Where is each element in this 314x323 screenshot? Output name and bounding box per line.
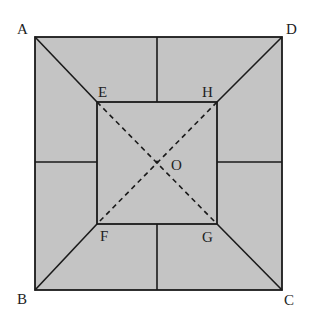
center-point-O <box>155 160 158 163</box>
label-O: O <box>171 157 182 173</box>
label-F: F <box>100 228 108 244</box>
label-H: H <box>202 84 213 100</box>
label-E: E <box>98 84 107 100</box>
square-frame-diagram: A D B C E H F G O <box>0 0 314 323</box>
label-G: G <box>202 229 213 245</box>
label-D: D <box>286 21 297 37</box>
label-A: A <box>17 21 28 37</box>
label-C: C <box>284 292 294 308</box>
label-B: B <box>17 291 27 307</box>
